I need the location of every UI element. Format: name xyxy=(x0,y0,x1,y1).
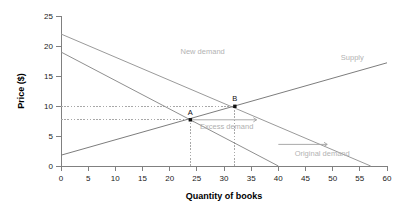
y-tick-label: 25 xyxy=(44,12,53,21)
y-axis-title: Price ($) xyxy=(16,73,26,109)
x-tick-label: 5 xyxy=(86,174,91,183)
x-axis-title: Quantity of books xyxy=(186,191,263,201)
y-tick-label: 15 xyxy=(44,72,53,81)
y-tick-label: 5 xyxy=(49,132,54,141)
point-label-b: B xyxy=(232,94,237,103)
x-tick-label: 55 xyxy=(355,174,364,183)
demand-shift-arrow xyxy=(278,142,327,146)
point-marker-b xyxy=(233,105,236,108)
series-line-original-demand xyxy=(61,52,278,166)
series-label-new-demand: New demand xyxy=(181,47,225,56)
series-label-supply: Supply xyxy=(341,53,364,62)
x-axis-ticks: 0 5 10 15 20 25 30 35 40 45 50 55 60 xyxy=(59,166,392,183)
series-labels: Supply New demand Original demand xyxy=(181,47,364,158)
y-axis-ticks: 0 5 10 15 20 25 xyxy=(44,12,61,171)
guide-lines xyxy=(61,106,235,166)
series-line-supply xyxy=(61,63,387,155)
x-tick-label: 0 xyxy=(59,174,64,183)
series-label-original-demand: Original demand xyxy=(295,149,350,158)
x-tick-label: 40 xyxy=(274,174,283,183)
y-tick-label: 20 xyxy=(44,42,53,51)
x-tick-label: 20 xyxy=(165,174,174,183)
x-tick-label: 60 xyxy=(383,174,392,183)
y-tick-label: 10 xyxy=(44,102,53,111)
chart-canvas: 0 5 10 15 20 25 0 5 10 15 20 25 xyxy=(0,0,413,208)
x-tick-label: 10 xyxy=(111,174,120,183)
point-marker-a xyxy=(189,118,192,121)
x-tick-label: 30 xyxy=(220,174,229,183)
x-tick-label: 50 xyxy=(328,174,337,183)
excess-demand-label: Excess demand xyxy=(200,122,253,131)
supply-demand-chart: 0 5 10 15 20 25 0 5 10 15 20 25 xyxy=(0,0,413,208)
x-tick-label: 15 xyxy=(138,174,147,183)
x-tick-label: 35 xyxy=(247,174,256,183)
y-tick-label: 0 xyxy=(49,162,54,171)
x-tick-label: 25 xyxy=(192,174,201,183)
x-tick-label: 45 xyxy=(301,174,310,183)
point-label-a: A xyxy=(188,108,193,117)
